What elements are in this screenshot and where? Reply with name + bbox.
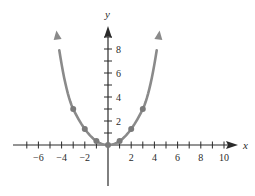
- x-tick-label: 10: [219, 152, 229, 163]
- y-tick-label: 2: [116, 116, 121, 127]
- data-point: [140, 106, 146, 112]
- curve-arrow-right-icon: [154, 31, 162, 40]
- data-point: [117, 138, 123, 144]
- data-point: [70, 106, 76, 112]
- data-point: [105, 142, 111, 148]
- x-tick-label: 2: [129, 152, 134, 163]
- y-axis-label: y: [104, 8, 110, 20]
- axes: [13, 26, 238, 186]
- data-point: [128, 126, 134, 132]
- x-tick-label: −6: [33, 152, 44, 163]
- y-tick-label: 8: [116, 44, 121, 55]
- x-tick-label: −4: [56, 152, 67, 163]
- x-tick-label: 4: [152, 152, 157, 163]
- axis-ticks: [27, 37, 224, 149]
- y-tick-label: 6: [116, 68, 121, 79]
- y-tick-label: 4: [116, 92, 121, 103]
- curve-arrow-left-icon: [54, 31, 62, 40]
- x-tick-label: −2: [79, 152, 90, 163]
- x-axis-label: x: [242, 139, 248, 151]
- x-tick-label: 8: [198, 152, 203, 163]
- x-tick-label: 6: [175, 152, 180, 163]
- data-point: [93, 138, 99, 144]
- data-point: [82, 126, 88, 132]
- parabola-graph: −6−4−22468102468 x y: [0, 0, 255, 196]
